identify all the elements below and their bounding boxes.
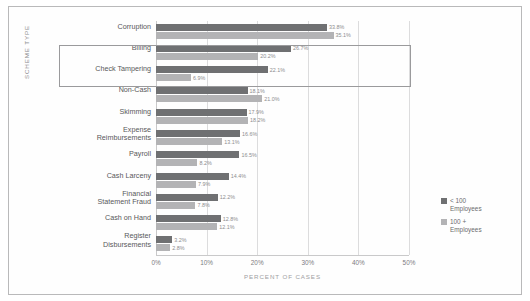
x-tick-label: 50% <box>403 259 416 266</box>
legend-swatch-large <box>441 219 447 225</box>
category-label: Cash on Hand <box>41 214 151 222</box>
chart-legend: < 100 Employees 100 + Employees <box>441 197 511 239</box>
bar[interactable]: 8.2% <box>156 159 197 166</box>
bar[interactable]: 22.1% <box>156 66 268 73</box>
bar[interactable]: 7.8% <box>156 202 195 209</box>
chart-frame: SCHEME TYPE Corruption33.8%35.1%Billing2… <box>8 6 522 295</box>
category-label: Check Tampering <box>41 65 151 73</box>
chart-row: Financial Statement Fraud12.2%7.8% <box>156 193 409 211</box>
x-axis-line <box>156 255 409 256</box>
bar-value-label: 12.2% <box>220 194 235 200</box>
category-label: Payroll <box>41 150 151 158</box>
category-label: Corruption <box>41 23 151 31</box>
bar-value-label: 35.1% <box>336 32 351 38</box>
bar[interactable]: 12.8% <box>156 215 221 222</box>
chart-row: Cash Larceny14.4%7.9% <box>156 172 409 190</box>
bar-value-label: 12.8% <box>223 216 238 222</box>
chart-row: Cash on Hand12.8%12.1% <box>156 214 409 232</box>
chart-row: Register Disbursements3.2%2.8% <box>156 235 409 253</box>
category-label: Expense Reimbursements <box>41 126 151 142</box>
x-axis-title: PERCENT OF CASES <box>156 273 409 280</box>
legend-item-large[interactable]: 100 + Employees <box>441 218 511 233</box>
x-tick-label: 0% <box>151 259 160 266</box>
bar-value-label: 16.5% <box>241 152 256 158</box>
x-tick-label: 10% <box>200 259 213 266</box>
bar-value-label: 7.9% <box>198 181 210 187</box>
legend-label-large: 100 + Employees <box>450 218 482 233</box>
bar[interactable]: 14.4% <box>156 173 229 180</box>
category-label: Register Disbursements <box>41 232 151 248</box>
bar[interactable]: 13.1% <box>156 138 222 145</box>
x-tick-label: 30% <box>301 259 314 266</box>
bar-value-label: 13.1% <box>224 139 239 145</box>
legend-item-small[interactable]: < 100 Employees <box>441 197 511 212</box>
category-label: Financial Statement Fraud <box>41 190 151 206</box>
bar-value-label: 12.1% <box>219 224 234 230</box>
chart-row: Skimming17.9%18.2% <box>156 108 409 126</box>
plot-area: Corruption33.8%35.1%Billing26.7%20.2%Che… <box>156 21 409 255</box>
bar[interactable]: 17.9% <box>156 109 247 116</box>
bar-value-label: 33.8% <box>329 24 344 30</box>
bar-value-label: 18.1% <box>250 88 265 94</box>
category-label: Skimming <box>41 108 151 116</box>
bar-value-label: 7.8% <box>197 202 209 208</box>
bar-value-label: 6.9% <box>193 75 205 81</box>
chart-row: Billing26.7%20.2% <box>156 44 409 62</box>
bar-value-label: 20.2% <box>260 53 275 59</box>
chart-row: Corruption33.8%35.1% <box>156 23 409 41</box>
bar[interactable]: 12.1% <box>156 223 217 230</box>
legend-swatch-small <box>441 198 447 204</box>
bar[interactable]: 18.1% <box>156 87 248 94</box>
bar-value-label: 3.2% <box>174 237 186 243</box>
bar-value-label: 2.8% <box>172 245 184 251</box>
bar[interactable]: 3.2% <box>156 236 172 243</box>
bar[interactable]: 26.7% <box>156 45 291 52</box>
bar-value-label: 17.9% <box>249 109 264 115</box>
category-label: Billing <box>41 44 151 52</box>
chart-row: Expense Reimbursements16.6%13.1% <box>156 129 409 147</box>
bar[interactable]: 18.2% <box>156 117 248 124</box>
bar[interactable]: 16.6% <box>156 130 240 137</box>
bar[interactable]: 21.0% <box>156 95 262 102</box>
x-tick-label: 40% <box>352 259 365 266</box>
bar-value-label: 18.2% <box>250 117 265 123</box>
bar-value-label: 22.1% <box>270 67 285 73</box>
bar[interactable]: 35.1% <box>156 32 334 39</box>
category-label: Cash Larceny <box>41 172 151 180</box>
bar-value-label: 21.0% <box>264 96 279 102</box>
legend-label-small: < 100 Employees <box>450 197 482 212</box>
bar[interactable]: 12.2% <box>156 194 218 201</box>
bar[interactable]: 7.9% <box>156 181 196 188</box>
bar[interactable]: 6.9% <box>156 74 191 81</box>
bar[interactable]: 2.8% <box>156 244 170 251</box>
chart-row: Payroll16.5%8.2% <box>156 150 409 168</box>
bar-value-label: 16.6% <box>242 131 257 137</box>
y-axis-title: SCHEME TYPE <box>23 2 30 102</box>
bar-value-label: 26.7% <box>293 45 308 51</box>
chart-row: Non-Cash18.1%21.0% <box>156 86 409 104</box>
bar[interactable]: 16.5% <box>156 151 239 158</box>
category-label: Non-Cash <box>41 86 151 94</box>
gridline-50 <box>409 21 410 255</box>
bar-value-label: 8.2% <box>199 160 211 166</box>
bar[interactable]: 33.8% <box>156 24 327 31</box>
x-tick-label: 20% <box>251 259 264 266</box>
chart-row: Check Tampering22.1%6.9% <box>156 65 409 83</box>
bar[interactable]: 20.2% <box>156 53 258 60</box>
bar-value-label: 14.4% <box>231 173 246 179</box>
